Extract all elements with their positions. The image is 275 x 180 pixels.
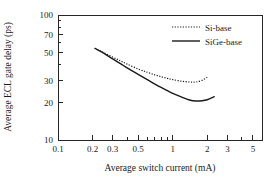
x-tick-label: 5 [251, 144, 256, 154]
x-tick-label: 3 [225, 144, 230, 154]
chart-canvas: 1020305070100 0.10.20.30.51235 Si-base S… [0, 0, 275, 180]
x-tick-label: 0.1 [52, 144, 63, 154]
x-tick-label: 2 [205, 144, 210, 154]
y-axis-title: Average ECL gate delay (ps) [3, 22, 14, 132]
x-tick-label: 0.2 [87, 144, 98, 154]
y-tick-label: 50 [44, 48, 54, 58]
plot-frame [58, 15, 262, 140]
y-axis-tick-labels: 1020305070100 [40, 10, 54, 145]
y-tick-label: 70 [44, 30, 54, 40]
y-tick-label: 30 [44, 76, 54, 86]
y-tick-label: 20 [44, 98, 54, 108]
chart-figure: 1020305070100 0.10.20.30.51235 Si-base S… [0, 0, 275, 180]
y-tick-label: 100 [40, 10, 54, 20]
x-tick-label: 1 [170, 144, 175, 154]
x-axis-tick-labels: 0.10.20.30.51235 [52, 144, 255, 154]
x-tick-label: 0.5 [133, 144, 145, 154]
x-tick-label: 0.3 [107, 144, 119, 154]
legend-label-sige-base: SiGe-base [205, 37, 242, 47]
legend-label-si-base: Si-base [205, 23, 232, 33]
x-axis-title: Average switch current (mA) [105, 163, 216, 174]
